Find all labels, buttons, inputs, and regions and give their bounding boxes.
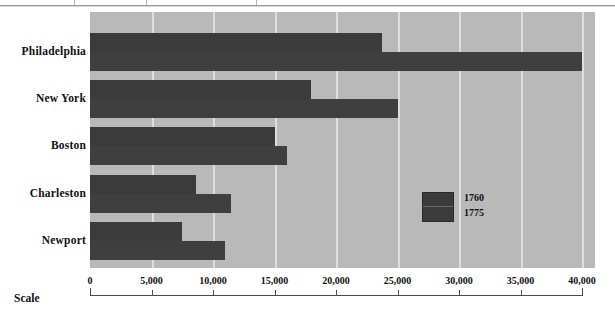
axis-cap-right [582,288,583,296]
axis-tick-25000 [398,290,399,296]
axis-tick-label-40000: 40,000 [568,275,596,286]
axis-tick-15000 [275,290,276,296]
axis-tick-5000 [152,290,153,296]
axis-tick-label-25000: 25,000 [384,275,412,286]
axis-tick-label-10000: 10,000 [199,275,227,286]
axis-tick-30000 [459,290,460,296]
axis-tick-label-0: 0 [88,275,93,286]
x-axis: 05,00010,00015,00020,00025,00030,00035,0… [0,0,615,314]
axis-tick-label-15000: 15,000 [261,275,289,286]
axis-tick-label-35000: 35,000 [507,275,535,286]
axis-tick-label-30000: 30,000 [445,275,473,286]
chart-root: 1760 1775 PhiladelphiaNew YorkBostonChar… [0,0,615,314]
axis-tick-35000 [521,290,522,296]
axis-tick-label-20000: 20,000 [322,275,350,286]
axis-tick-label-5000: 5,000 [140,275,163,286]
axis-tick-10000 [213,290,214,296]
axis-cap-left [90,288,91,296]
scale-label: Scale [14,292,40,304]
axis-tick-20000 [336,290,337,296]
